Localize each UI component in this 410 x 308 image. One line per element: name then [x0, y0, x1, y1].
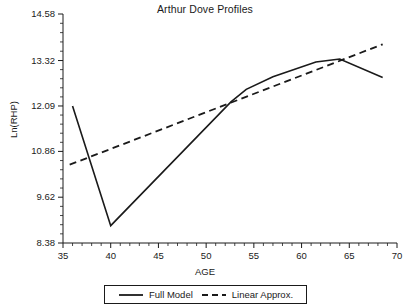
data-series [70, 44, 383, 225]
y-tick-label: 12.09 [9, 100, 55, 111]
legend-item-full-model[interactable]: Full Model [118, 289, 193, 300]
x-tick-label: 50 [189, 250, 223, 261]
legend-item-linear-approx[interactable]: Linear Approx. [201, 289, 293, 300]
x-tick-label: 60 [285, 250, 319, 261]
y-tick-label: 8.38 [9, 237, 55, 248]
legend-label-full-model: Full Model [149, 289, 193, 300]
x-tick-label: 55 [237, 250, 271, 261]
x-tick-label: 35 [46, 250, 80, 261]
x-tick-label: 40 [94, 250, 128, 261]
y-tick-label: 9.62 [9, 191, 55, 202]
y-tick-label: 14.58 [9, 8, 55, 19]
chart-figure: Arthur Dove Profiles Ln(RHP) AGE 8.389.6… [0, 0, 410, 308]
x-tick-label: 65 [332, 250, 366, 261]
x-tick-label: 45 [141, 250, 175, 261]
series-linear-approx [70, 44, 383, 164]
axes [58, 14, 397, 248]
chart-legend: Full Model Linear Approx. [104, 285, 307, 304]
y-tick-label: 10.86 [9, 145, 55, 156]
legend-swatch-dashed [201, 290, 227, 300]
plot-area [0, 0, 410, 308]
legend-swatch-solid [118, 290, 144, 300]
x-tick-label: 70 [380, 250, 410, 261]
series-full-model [73, 59, 383, 226]
y-tick-label: 13.32 [9, 55, 55, 66]
legend-label-linear-approx: Linear Approx. [232, 289, 293, 300]
